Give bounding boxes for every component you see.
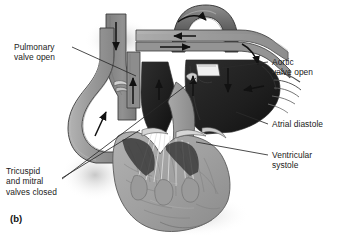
pulmonary-trunk-outflow-arrow (95, 112, 106, 136)
label-pulmonary-valve: Pulmonary valve open (14, 42, 55, 63)
figure-caption: (b) (10, 213, 22, 224)
label-ventricular-systole: Ventricular systole (272, 150, 312, 171)
label-atrial-diastole: Atrial diastole (272, 119, 323, 129)
label-tricuspid-mitral-valves: Tricuspid and mitral valves closed (6, 166, 57, 197)
label-aortic-valve: Aortic valve open (272, 57, 313, 78)
